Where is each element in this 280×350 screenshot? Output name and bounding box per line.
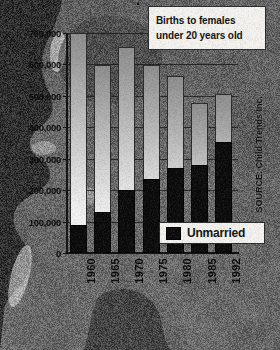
callout-line-2: under 20 years old: [156, 28, 260, 43]
y-tick-mark: [63, 96, 68, 97]
bar-segment-unmarried: [118, 190, 135, 253]
x-tick-label: 1965: [109, 258, 121, 284]
plot-area: 0100,000200,000300,000400,000500,000600,…: [67, 33, 238, 253]
x-tick-label: 1975: [157, 258, 169, 284]
y-tick-mark: [63, 190, 68, 191]
source-attribution: SOURCE: Child Trends Inc.: [254, 96, 264, 213]
y-tick-mark: [63, 33, 68, 34]
x-tick-label: 1985: [206, 258, 218, 284]
y-tick-label: 400,000: [0, 122, 61, 133]
teen-births-bar-chart: · 0100,000200,000300,000400,000500,00060…: [0, 0, 280, 350]
chart-callout-box: Births to females under 20 years old: [148, 6, 266, 50]
cropped-top-glyph: ·: [136, 0, 141, 12]
y-tick-label: 600,000: [0, 59, 61, 70]
y-tick-label: 0: [0, 248, 61, 259]
y-tick-label: 500,000: [0, 90, 61, 101]
legend-label-unmarried: Unmarried: [187, 226, 245, 240]
legend-swatch-unmarried: [166, 227, 181, 240]
y-tick-mark: [63, 159, 68, 160]
x-tick-label: 1992: [230, 258, 242, 284]
bar-segment-unmarried: [143, 179, 160, 253]
bar-total: [143, 65, 160, 253]
x-tick-label: 1980: [181, 258, 193, 284]
bar-segment-unmarried: [70, 225, 87, 253]
y-tick-mark: [63, 127, 68, 128]
bar-segment-unmarried: [94, 212, 111, 253]
y-tick-mark: [63, 64, 68, 65]
callout-line-1: Births to females: [156, 13, 260, 28]
bar-total: [94, 65, 111, 253]
bar-total: [70, 33, 87, 253]
y-tick-label: 100,000: [0, 216, 61, 227]
x-tick-label: 1960: [85, 258, 97, 284]
y-tick-label: 300,000: [0, 153, 61, 164]
y-tick-label: 200,000: [0, 185, 61, 196]
chart-legend: Unmarried: [159, 222, 265, 244]
bar-total: [118, 47, 135, 253]
y-tick-mark: [63, 222, 68, 223]
y-tick-mark: [63, 253, 68, 254]
y-tick-label: 700,000: [0, 28, 61, 39]
x-tick-label: 1970: [133, 258, 145, 284]
